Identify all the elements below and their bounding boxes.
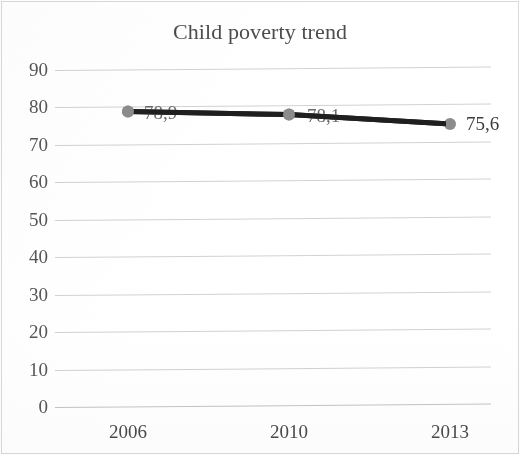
y-axis-tick-label: 70 [2, 135, 48, 154]
y-axis-tick-label: 50 [2, 210, 48, 229]
data-point-label: 75,6 [466, 114, 499, 133]
data-point-marker [444, 118, 456, 130]
y-axis-tick-label: 40 [2, 247, 48, 266]
y-axis: 9080706050403020100 [0, 0, 48, 455]
x-axis-tick-label: 2006 [109, 421, 147, 443]
data-point-label: 78,1 [307, 106, 340, 125]
y-axis-tick-label: 80 [2, 97, 48, 116]
x-axis: 200620102013 [0, 421, 520, 447]
y-axis-tick-label: 10 [2, 360, 48, 379]
chart-title: Child poverty trend [0, 19, 520, 45]
plot-area: 78,978,175,6 [55, 70, 491, 407]
y-axis-tick-label: 20 [2, 322, 48, 341]
y-axis-tick-label: 30 [2, 285, 48, 304]
x-axis-tick-label: 2013 [431, 421, 469, 443]
data-point-label: 78,9 [144, 103, 177, 122]
data-point-marker [283, 109, 295, 121]
line-series [55, 70, 491, 407]
y-axis-tick-label: 0 [2, 397, 48, 416]
y-axis-tick-label: 90 [2, 60, 48, 79]
x-axis-tick-label: 2010 [270, 421, 308, 443]
y-axis-tick-label: 60 [2, 172, 48, 191]
chart-image: Child poverty trend 9080706050403020100 … [0, 0, 520, 455]
